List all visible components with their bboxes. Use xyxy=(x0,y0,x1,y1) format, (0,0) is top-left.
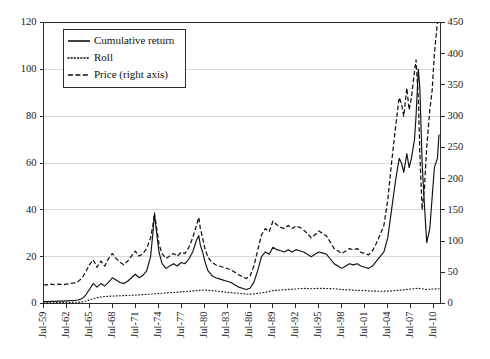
x-tick-label: Jul-80 xyxy=(198,312,209,338)
y-tick-label: 120 xyxy=(21,16,37,27)
series-line-solid xyxy=(44,69,439,301)
x-tick-label: Jul-68 xyxy=(106,312,117,338)
series-line-dotted xyxy=(44,288,439,303)
legend-label: Roll xyxy=(94,51,113,63)
x-tick-label: Jul-95 xyxy=(312,312,323,338)
y-tick-label: 80 xyxy=(26,110,37,121)
y2-tick-label: 250 xyxy=(448,141,464,152)
x-tick-label: Jul-86 xyxy=(243,312,254,338)
y-tick-label: 60 xyxy=(26,157,37,168)
x-tick-label: Jul-92 xyxy=(289,312,300,338)
chart-legend: Cumulative returnRollPrice (right axis) xyxy=(63,29,185,87)
y2-tick-label: 0 xyxy=(448,297,453,308)
x-tick-label: Jul-71 xyxy=(129,312,140,338)
y-tick-label: 40 xyxy=(26,204,37,215)
x-tick-label: Jul-89 xyxy=(266,312,277,338)
chart-container: Jul-59Jul-62Jul-65Jul-68Jul-71Jul-74Jul-… xyxy=(0,0,490,359)
y2-tick-label: 300 xyxy=(448,110,464,121)
x-tick-label: Jul-01 xyxy=(358,312,369,338)
y2-tick-label: 100 xyxy=(448,235,464,246)
y2-tick-label: 50 xyxy=(448,266,459,277)
y-axis-right-ticks: 050100150200250300350400450 xyxy=(441,16,464,308)
x-tick-label: Jul-65 xyxy=(83,312,94,338)
x-tick-label: Jul-04 xyxy=(381,311,392,338)
y2-tick-label: 200 xyxy=(448,173,464,184)
y2-tick-label: 150 xyxy=(448,204,464,215)
x-axis-ticks: Jul-59Jul-62Jul-65Jul-68Jul-71Jul-74Jul-… xyxy=(37,304,438,338)
line-chart: Jul-59Jul-62Jul-65Jul-68Jul-71Jul-74Jul-… xyxy=(0,0,490,359)
x-tick-label: Jul-74 xyxy=(152,311,163,338)
x-tick-label: Jul-10 xyxy=(427,312,438,338)
y-tick-label: 0 xyxy=(31,297,36,308)
y2-tick-label: 450 xyxy=(448,16,464,27)
y2-tick-label: 400 xyxy=(448,48,464,59)
y-tick-label: 20 xyxy=(26,251,37,262)
x-tick-label: Jul-77 xyxy=(175,312,186,338)
legend-label: Price (right axis) xyxy=(94,68,168,81)
y-tick-label: 100 xyxy=(21,63,37,74)
x-tick-label: Jul-98 xyxy=(335,312,346,338)
x-tick-label: Jul-83 xyxy=(220,312,231,338)
x-tick-label: Jul-07 xyxy=(404,312,415,338)
y-axis-left-ticks: 020406080100120 xyxy=(21,16,44,308)
y2-tick-label: 350 xyxy=(448,79,464,90)
x-tick-label: Jul-62 xyxy=(60,312,71,338)
legend-label: Cumulative return xyxy=(94,34,175,46)
x-tick-label: Jul-59 xyxy=(37,312,48,338)
